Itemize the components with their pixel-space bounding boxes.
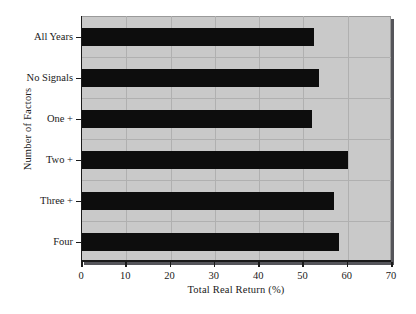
x-tick-mark bbox=[125, 262, 127, 267]
gridline-vertical bbox=[303, 16, 304, 260]
gridline-horizontal bbox=[82, 57, 391, 58]
plot-area bbox=[81, 16, 391, 262]
y-tick-mark bbox=[76, 201, 81, 203]
bar-one bbox=[82, 110, 312, 128]
x-tick-label: 30 bbox=[194, 270, 234, 282]
plot-inner bbox=[82, 16, 391, 260]
y-tick-label: One + bbox=[47, 113, 73, 125]
x-tick-label: 10 bbox=[105, 270, 145, 282]
x-tick-label: 20 bbox=[150, 270, 190, 282]
x-tick-mark bbox=[214, 262, 216, 267]
x-axis-title: Total Real Return (%) bbox=[81, 284, 391, 296]
y-tick-label: No Signals bbox=[27, 72, 73, 84]
gridline-horizontal bbox=[82, 180, 391, 181]
y-tick-mark bbox=[76, 242, 81, 244]
x-tick-mark bbox=[302, 262, 304, 267]
y-tick-mark bbox=[76, 119, 81, 121]
bar-three bbox=[82, 192, 334, 210]
plot-top-edge bbox=[82, 16, 391, 17]
gridline-vertical bbox=[259, 16, 260, 260]
x-tick-mark bbox=[347, 262, 349, 267]
y-tick-mark bbox=[76, 78, 81, 80]
y-tick-mark bbox=[76, 160, 81, 162]
y-tick-label: Four bbox=[53, 236, 73, 248]
bar-all-years bbox=[82, 28, 314, 46]
y-tick-label: Two + bbox=[46, 154, 73, 166]
x-tick-label: 70 bbox=[371, 270, 411, 282]
x-tick-mark bbox=[81, 262, 83, 267]
gridline-horizontal bbox=[82, 139, 391, 140]
x-tick-label: 0 bbox=[61, 270, 101, 282]
gridline-horizontal bbox=[82, 98, 391, 99]
bar-no-signals bbox=[82, 69, 319, 87]
x-tick-label: 40 bbox=[238, 270, 278, 282]
y-tick-label: All Years bbox=[34, 31, 73, 43]
x-tick-mark bbox=[391, 262, 393, 267]
x-tick-mark bbox=[170, 262, 172, 267]
x-tick-label: 60 bbox=[327, 270, 367, 282]
gridline-vertical bbox=[171, 16, 172, 260]
gridline-vertical bbox=[215, 16, 216, 260]
bar-four bbox=[82, 233, 339, 251]
gridline-vertical bbox=[348, 16, 349, 260]
bar-two bbox=[82, 151, 348, 169]
gridline-vertical bbox=[126, 16, 127, 260]
x-tick-label: 50 bbox=[282, 270, 322, 282]
y-tick-label: Three + bbox=[40, 195, 73, 207]
y-tick-mark bbox=[76, 37, 81, 39]
gridline-horizontal bbox=[82, 221, 391, 222]
x-tick-mark bbox=[258, 262, 260, 267]
plot-right-edge bbox=[390, 16, 391, 260]
bar-chart-figure: Number of Factors All YearsNo SignalsOne… bbox=[0, 0, 416, 314]
